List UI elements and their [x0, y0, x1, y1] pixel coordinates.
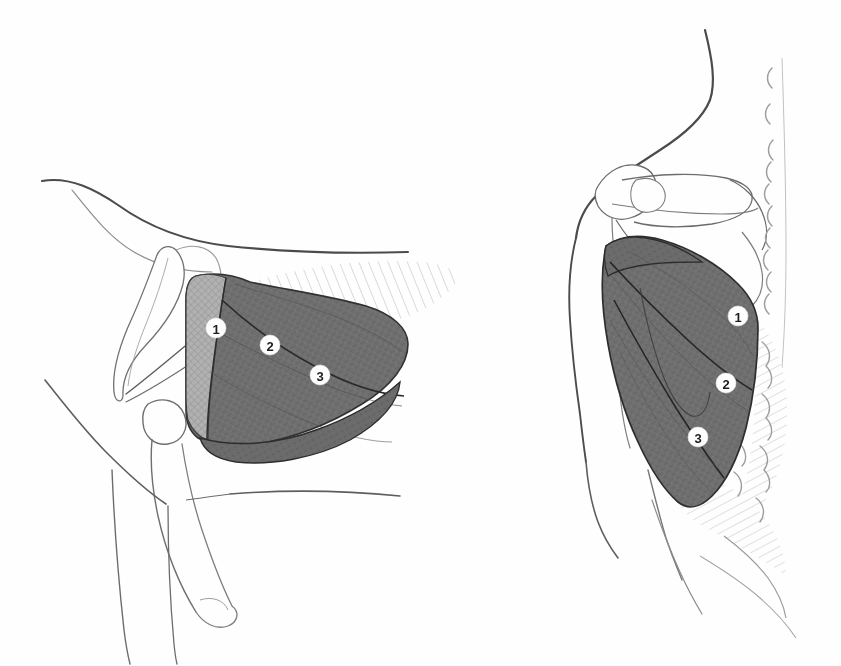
scan-grain-overlay [0, 0, 841, 666]
anatomical-figure-canvas: 1 2 3 [0, 0, 841, 666]
